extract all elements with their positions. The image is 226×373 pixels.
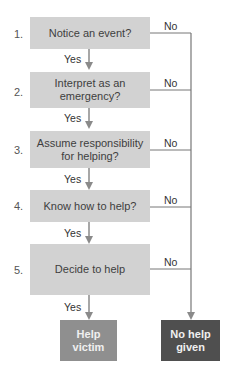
no-label-5: No xyxy=(164,256,177,268)
no-label-1: No xyxy=(164,20,177,32)
step-label: Interpret as an emergency? xyxy=(48,77,132,103)
yes-label-5: Yes xyxy=(64,301,81,313)
step-box-know-how: Know how to help? xyxy=(30,190,150,222)
step-box-notice-event: Notice an event? xyxy=(30,17,150,49)
yes-label-3: Yes xyxy=(64,173,81,185)
step-box-interpret-emergency: Interpret as an emergency? xyxy=(30,72,150,108)
no-label-4: No xyxy=(164,194,177,206)
outcome-no-help-given: No help given xyxy=(161,320,220,361)
step-label: Decide to help xyxy=(55,263,125,276)
yes-label-2: Yes xyxy=(64,112,81,124)
yes-label-4: Yes xyxy=(64,227,81,239)
step-box-assume-responsibility: Assume responsibility for helping? xyxy=(30,131,150,168)
step-label: Notice an event? xyxy=(49,27,132,40)
step-label: Know how to help? xyxy=(44,200,137,213)
step-box-decide: Decide to help xyxy=(30,244,150,295)
connector-lines xyxy=(0,0,226,373)
no-label-3: No xyxy=(164,137,177,149)
step-label: Assume responsibility for helping? xyxy=(34,137,146,163)
outcome-label: Help victim xyxy=(71,328,107,354)
yes-label-1: Yes xyxy=(64,53,81,65)
outcome-label: No help given xyxy=(166,328,216,354)
outcome-help-victim: Help victim xyxy=(60,320,117,361)
no-label-2: No xyxy=(164,77,177,89)
